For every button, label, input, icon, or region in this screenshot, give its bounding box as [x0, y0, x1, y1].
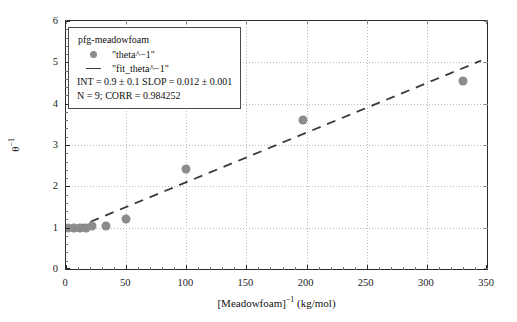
x-axis-minor-tick — [90, 267, 91, 270]
legend-marker-icon — [76, 51, 110, 58]
y-axis-minor-tick — [65, 128, 68, 129]
x-axis-tick-label: 100 — [177, 277, 193, 288]
x-axis-tick-label: 250 — [358, 277, 374, 288]
x-axis-minor-tick — [295, 267, 296, 270]
x-axis-tick — [367, 265, 368, 270]
x-axis-minor-tick — [463, 267, 464, 270]
y-axis-minor-tick — [65, 137, 68, 138]
legend-entry-scatter: "theta^−1" — [76, 48, 232, 62]
y-axis-tick — [65, 228, 70, 229]
y-axis-minor-tick — [65, 219, 68, 220]
y-axis-tick-right — [484, 268, 488, 269]
x-axis-minor-tick — [403, 267, 404, 270]
x-axis-tick-label: 150 — [238, 277, 254, 288]
x-axis-minor-tick — [102, 267, 103, 270]
y-axis-tick-label: 6 — [40, 15, 58, 26]
legend-box: pfg-meadowfoam "theta^−1" "fit_theta^−1"… — [68, 27, 241, 109]
x-axis-minor-tick — [222, 267, 223, 270]
y-axis-tick-label: 3 — [40, 139, 58, 150]
x-axis-tick-label: 0 — [62, 277, 67, 288]
y-axis-minor-tick — [65, 211, 68, 212]
y-axis-minor-tick — [65, 203, 68, 204]
y-axis-minor-tick — [65, 236, 68, 237]
x-axis-tick — [427, 265, 428, 270]
x-axis-minor-tick — [415, 267, 416, 270]
y-axis-minor-tick — [65, 112, 68, 113]
x-axis-tick-top — [126, 20, 127, 24]
y-axis-minor-tick — [65, 252, 68, 253]
legend-entry-fit: "fit_theta^−1" — [76, 62, 232, 76]
x-axis-title-units: (kg/mol) — [294, 297, 335, 309]
y-axis-minor-tick — [65, 153, 68, 154]
x-axis-title-text: [Meadowfoam] — [217, 297, 285, 309]
y-axis-tick-right — [484, 21, 488, 22]
x-axis-minor-tick — [162, 267, 163, 270]
x-axis-minor-tick — [475, 267, 476, 270]
legend-line-icon — [76, 68, 110, 69]
y-axis-title-text: θ — [9, 147, 21, 152]
legend-corr-stats: N = 9; CORR = 0.984252 — [76, 89, 232, 103]
data-point — [298, 116, 307, 125]
x-axis-title: [Meadowfoam]−1 (kg/mol) — [65, 295, 488, 309]
y-axis-minor-tick — [65, 244, 68, 245]
data-point — [122, 215, 131, 224]
data-point — [458, 76, 467, 85]
data-point — [88, 221, 97, 230]
y-axis-title: θ−1 — [7, 138, 21, 152]
y-axis-minor-tick — [65, 195, 68, 196]
x-axis-tick-top — [246, 20, 247, 24]
x-axis-minor-tick — [78, 267, 79, 270]
y-axis-tick-right — [484, 104, 488, 105]
x-axis-minor-tick — [451, 267, 452, 270]
x-axis-minor-tick — [355, 267, 356, 270]
x-axis-tick — [307, 265, 308, 270]
chart-figure: [Meadowfoam]−1 (kg/mol) θ−1 pfg-meadowfo… — [0, 0, 517, 322]
x-axis-minor-tick — [198, 267, 199, 270]
y-axis-tick — [65, 186, 70, 187]
x-axis-tick-top — [307, 20, 308, 24]
x-axis-minor-tick — [343, 267, 344, 270]
y-axis-minor-tick — [65, 170, 68, 171]
x-axis-minor-tick — [174, 267, 175, 270]
x-axis-tick — [246, 265, 247, 270]
x-axis-tick-top — [427, 20, 428, 24]
y-axis-tick-label: 2 — [40, 180, 58, 191]
x-axis-minor-tick — [114, 267, 115, 270]
y-axis-minor-tick — [65, 261, 68, 262]
x-axis-minor-tick — [319, 267, 320, 270]
y-axis-tick-label: 0 — [40, 263, 58, 274]
y-axis-minor-tick — [65, 178, 68, 179]
y-axis-title-exponent: −1 — [7, 138, 16, 146]
x-axis-minor-tick — [379, 267, 380, 270]
legend-title: pfg-meadowfoam — [76, 33, 232, 47]
legend-fit-stats: INT = 0.9 ± 0.1 SLOP = 0.012 ± 0.001 — [76, 75, 232, 89]
y-axis-tick-label: 4 — [40, 97, 58, 108]
x-axis-tick — [126, 265, 127, 270]
x-axis-minor-tick — [138, 267, 139, 270]
x-axis-tick — [186, 265, 187, 270]
y-axis-tick — [65, 268, 70, 269]
legend-entry-fit-label: "fit_theta^−1" — [110, 62, 169, 76]
legend-entry-scatter-label: "theta^−1" — [110, 48, 155, 62]
y-axis-tick — [65, 145, 70, 146]
x-axis-tick-label: 350 — [478, 277, 494, 288]
x-axis-tick-label: 50 — [120, 277, 131, 288]
y-axis-tick — [65, 21, 70, 22]
y-axis-tick-right — [484, 186, 488, 187]
x-axis-minor-tick — [234, 267, 235, 270]
y-axis-minor-tick — [65, 162, 68, 163]
x-axis-tick-label: 200 — [298, 277, 314, 288]
y-axis-minor-tick — [65, 120, 68, 121]
x-axis-minor-tick — [391, 267, 392, 270]
x-axis-minor-tick — [150, 267, 151, 270]
x-axis-minor-tick — [439, 267, 440, 270]
x-axis-tick-label: 300 — [418, 277, 434, 288]
x-axis-tick-top — [186, 20, 187, 24]
x-axis-minor-tick — [258, 267, 259, 270]
y-axis-tick-label: 5 — [40, 56, 58, 67]
x-axis-tick-top — [367, 20, 368, 24]
y-axis-tick-right — [484, 145, 488, 146]
data-point — [101, 221, 110, 230]
x-axis-minor-tick — [270, 267, 271, 270]
x-axis-minor-tick — [210, 267, 211, 270]
